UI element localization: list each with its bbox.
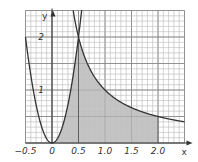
x-tick-label: −0.5 <box>15 146 37 156</box>
y-axis-label: y <box>42 11 48 21</box>
x-axis-label: x <box>182 147 188 157</box>
x-tick-label: 0 <box>49 146 55 156</box>
x-tick-label: 1.0 <box>98 146 113 156</box>
chart: x y −0.500.51.01.52.0 12 <box>0 0 198 162</box>
grid-overlay <box>26 11 185 144</box>
y-tick-label: 2 <box>38 32 44 42</box>
x-tick-label: 2.0 <box>151 146 166 156</box>
x-tick-label: 1.5 <box>124 146 139 156</box>
y-axis-arrow-icon <box>51 11 56 17</box>
x-tick-labels: −0.500.51.01.52.0 <box>15 146 166 156</box>
y-tick-label: 1 <box>38 85 44 95</box>
x-axis-arrow-icon <box>187 141 193 146</box>
x-tick-label: 0.5 <box>71 146 86 156</box>
